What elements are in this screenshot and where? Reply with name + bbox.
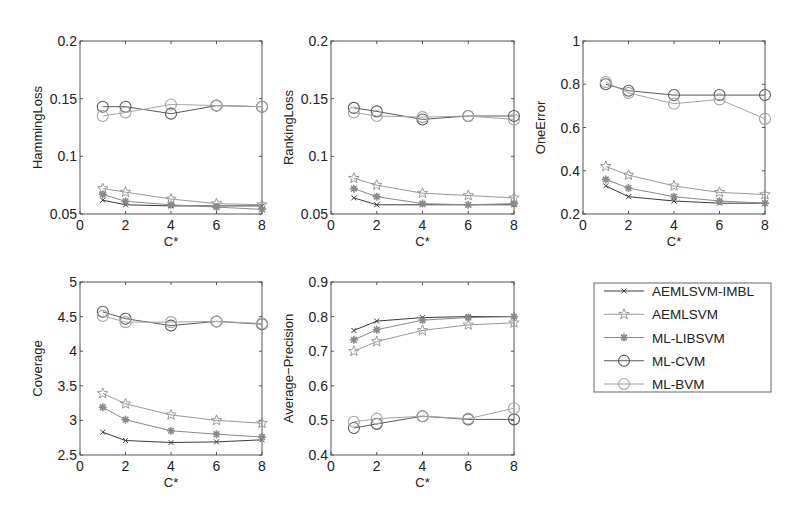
x-axis-label: C* — [164, 234, 178, 249]
y-tick-label: 0.05 — [301, 206, 328, 222]
x-tick-label: 8 — [510, 458, 518, 474]
x-axis-label: C* — [415, 475, 429, 490]
asterisk-marker-icon — [167, 201, 175, 209]
x-tick-label: 2 — [625, 217, 633, 233]
x-tick-label: 2 — [373, 458, 381, 474]
legend-label: AEMLSVM-IMBL — [652, 284, 755, 299]
y-tick-label: 0.1 — [58, 148, 78, 164]
y-tick-label: 0.4 — [561, 163, 581, 179]
x-tick-label: 4 — [167, 458, 175, 474]
asterisk-marker-icon — [761, 199, 769, 207]
x-tick-label: 6 — [464, 217, 472, 233]
legend-label: ML-CVM — [652, 354, 705, 369]
legend-label: AEMLSVM — [652, 307, 718, 322]
x-tick-label: 0 — [76, 458, 84, 474]
y-tick-label: 0.2 — [58, 33, 78, 49]
asterisk-marker-icon — [373, 193, 381, 201]
asterisk-marker-icon — [167, 427, 175, 435]
y-tick-label: 0.1 — [309, 148, 329, 164]
subplot-oneerror: 024680.20.40.60.81C*OneError — [533, 33, 771, 249]
y-axis-label: RankingLoss — [281, 89, 296, 165]
y-tick-label: 0.7 — [309, 343, 329, 359]
y-tick-label: 2.5 — [58, 447, 78, 463]
y-tick-label: 1 — [572, 33, 580, 49]
y-tick-label: 5 — [69, 274, 77, 290]
x-tick-label: 2 — [373, 217, 381, 233]
y-tick-label: 0.8 — [309, 309, 329, 325]
legend-label: ML-LIBSVM — [652, 331, 725, 346]
x-tick-label: 4 — [419, 217, 427, 233]
legend: AEMLSVM-IMBLAEMLSVMML-LIBSVMML-CVMML-BVM — [594, 283, 771, 392]
x-tick-label: 0 — [327, 458, 335, 474]
y-tick-label: 0.15 — [301, 91, 328, 107]
y-tick-label: 0.9 — [309, 274, 329, 290]
x-tick-label: 8 — [510, 217, 518, 233]
y-tick-label: 0.4 — [309, 447, 329, 463]
x-tick-label: 4 — [670, 217, 678, 233]
asterisk-marker-icon — [419, 200, 427, 208]
x-tick-label: 0 — [76, 217, 84, 233]
x-tick-label: 8 — [258, 458, 266, 474]
chart-grid: 024680.050.10.150.2C*HammingLoss024680.0… — [0, 0, 803, 524]
asterisk-marker-icon — [258, 433, 266, 441]
subplot-coverage: 024682.533.544.55C*Coverage — [30, 274, 268, 490]
y-tick-label: 4 — [69, 343, 77, 359]
y-tick-label: 3.5 — [58, 378, 78, 394]
asterisk-marker-icon — [602, 175, 610, 183]
asterisk-marker-icon — [350, 185, 358, 193]
y-tick-label: 0.6 — [309, 378, 329, 394]
y-tick-label: 4.5 — [58, 309, 78, 325]
x-tick-label: 8 — [761, 217, 769, 233]
x-tick-label: 6 — [464, 458, 472, 474]
asterisk-marker-icon — [213, 203, 221, 211]
asterisk-marker-icon — [510, 200, 518, 208]
asterisk-marker-icon — [419, 316, 427, 324]
asterisk-marker-icon — [670, 193, 678, 201]
y-tick-label: 0.15 — [50, 91, 77, 107]
asterisk-marker-icon — [625, 184, 633, 192]
figure: 024680.050.10.150.2C*HammingLoss024680.0… — [0, 0, 803, 524]
x-tick-label: 2 — [122, 458, 130, 474]
y-tick-label: 0.2 — [561, 206, 581, 222]
y-tick-label: 0.05 — [50, 206, 77, 222]
axes-box — [331, 282, 514, 455]
y-tick-label: 0.2 — [309, 33, 329, 49]
y-axis-label: Coverage — [30, 340, 45, 396]
x-tick-label: 4 — [419, 458, 427, 474]
x-axis-label: C* — [164, 475, 178, 490]
y-tick-label: 3 — [69, 412, 77, 428]
asterisk-marker-icon — [258, 205, 266, 213]
asterisk-marker-icon — [620, 334, 628, 342]
x-tick-label: 0 — [579, 217, 587, 233]
asterisk-marker-icon — [373, 326, 381, 334]
asterisk-marker-icon — [716, 197, 724, 205]
y-tick-label: 0.6 — [561, 120, 581, 136]
subplot-hammingloss: 024680.050.10.150.2C*HammingLoss — [30, 33, 268, 249]
y-axis-label: OneError — [533, 100, 548, 154]
x-axis-label: C* — [415, 234, 429, 249]
asterisk-marker-icon — [350, 336, 358, 344]
x-axis-label: C* — [667, 234, 681, 249]
subplot-rankingloss: 024680.050.10.150.2C*RankingLoss — [281, 33, 520, 249]
x-tick-label: 2 — [122, 217, 130, 233]
x-tick-label: 0 — [327, 217, 335, 233]
y-axis-label: HammingLoss — [30, 85, 45, 169]
legend-label: ML-BVM — [652, 377, 705, 392]
asterisk-marker-icon — [99, 403, 107, 411]
asterisk-marker-icon — [122, 416, 130, 424]
y-axis-label: Average−Precision — [281, 314, 296, 423]
x-tick-label: 6 — [213, 217, 221, 233]
asterisk-marker-icon — [464, 201, 472, 209]
asterisk-marker-icon — [122, 197, 130, 205]
y-tick-label: 0.5 — [309, 412, 329, 428]
x-tick-label: 8 — [258, 217, 266, 233]
x-tick-label: 6 — [213, 458, 221, 474]
asterisk-marker-icon — [99, 190, 107, 198]
subplot-average-precision: 024680.40.50.60.70.80.9C*Average−Precisi… — [281, 274, 520, 490]
asterisk-marker-icon — [510, 313, 518, 321]
x-tick-label: 4 — [167, 217, 175, 233]
asterisk-marker-icon — [213, 430, 221, 438]
x-tick-label: 6 — [716, 217, 724, 233]
y-tick-label: 0.8 — [561, 76, 581, 92]
asterisk-marker-icon — [464, 314, 472, 322]
